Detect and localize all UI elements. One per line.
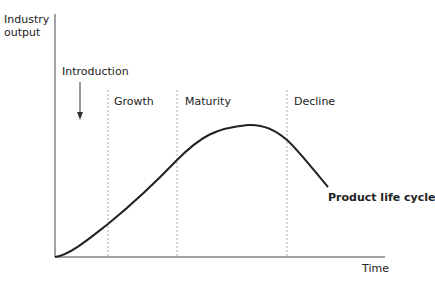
stage-growth: Growth [114, 95, 154, 108]
y-axis-label-2: output [4, 26, 40, 39]
curve-label: Product life cycle [328, 191, 435, 204]
stage-decline: Decline [294, 95, 335, 108]
stage-introduction: Introduction [62, 65, 129, 78]
arrow-head-icon [77, 112, 83, 120]
x-axis-label: Time [362, 262, 389, 275]
y-axis-label-1: Industry [4, 13, 49, 26]
stage-maturity: Maturity [185, 95, 231, 108]
